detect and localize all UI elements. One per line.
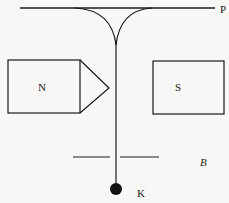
south-pole-magnet: [153, 61, 224, 114]
pendulum-bob: [110, 183, 122, 195]
field-label: B: [200, 156, 207, 168]
plate-label: P: [220, 3, 226, 15]
north-pole-tip: [80, 60, 109, 113]
bob-label: K: [137, 187, 145, 199]
pendulum-magnet-diagram: P N S B K: [0, 0, 229, 203]
north-pole-label: N: [38, 81, 46, 93]
suspension-curve-right: [116, 8, 152, 45]
south-pole-label: S: [175, 81, 181, 93]
suspension-curve-left: [75, 8, 116, 45]
